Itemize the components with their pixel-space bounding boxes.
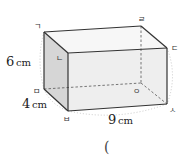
- prism-diagram: ㄱ ㄴ ㄷ ㄹ ㅁ ㅂ ㅅ ㅇ 6 cm 4 cm 9 cm (: [0, 0, 190, 155]
- vertex-label-nieun: ㄴ: [56, 54, 63, 63]
- height-value: 6: [6, 54, 14, 69]
- vertex-label-ieung: ㅇ: [133, 87, 140, 96]
- vertex-label-bieup: ㅂ: [63, 115, 70, 124]
- height-unit: cm: [16, 57, 32, 68]
- vertex-label-giyeok: ㄱ: [34, 22, 41, 31]
- height-dimension-label: 6 cm: [6, 54, 32, 69]
- answer-open-paren: (: [104, 139, 109, 155]
- vertex-label-siot: ㅅ: [169, 106, 176, 115]
- front-face: [68, 48, 167, 111]
- vertex-label-digeut: ㄷ: [171, 44, 178, 53]
- width-value: 9: [108, 112, 116, 127]
- depth-unit: cm: [32, 99, 48, 110]
- depth-dimension-label: 4 cm: [22, 96, 48, 111]
- prism-figure: ㄱ ㄴ ㄷ ㄹ ㅁ ㅂ ㅅ ㅇ 6 cm 4 cm 9 cm (: [0, 0, 190, 155]
- width-dimension-label: 9 cm: [108, 112, 134, 127]
- vertex-label-rieul: ㄹ: [138, 15, 145, 24]
- vertex-label-mieum: ㅁ: [33, 87, 40, 96]
- width-unit: cm: [118, 115, 134, 126]
- depth-value: 4: [22, 96, 30, 111]
